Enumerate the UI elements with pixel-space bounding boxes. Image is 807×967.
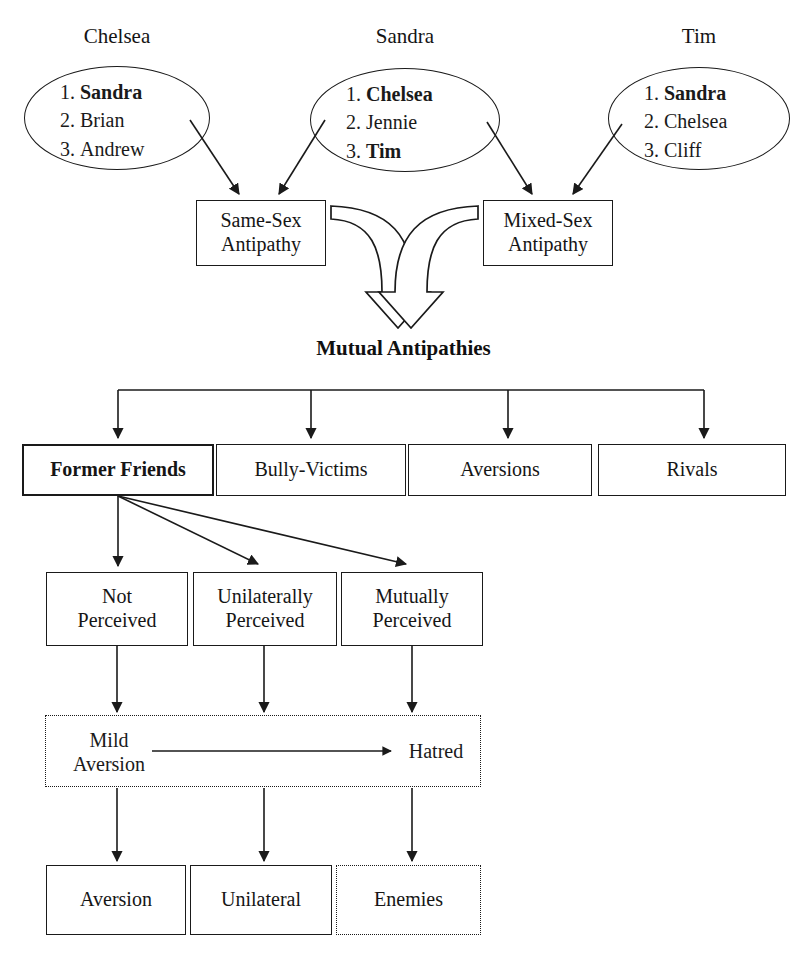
box-bully-victims: Bully-Victims [216,444,406,496]
block-arrow-mixed-sex-to-mutual [379,206,478,328]
choice-name: Tim [366,140,401,162]
box-not-perceived-text: Not Perceived [78,585,157,632]
nominator-label-sandra: Sandra [310,24,500,49]
line: Mixed-Sex [504,209,593,233]
label-hatred: Hatred [398,739,474,763]
choice-name: Chelsea [366,83,433,105]
line: Mild [62,728,156,752]
choice-row: 3.Tim [346,137,433,165]
nominator-label-chelsea: Chelsea [24,24,210,49]
diagram-canvas: Chelsea 1.Sandra 2.Brian 3.Andrew Sandra… [0,0,807,967]
choice-rank: 3. [60,135,80,163]
line: Same-Sex [220,209,301,233]
box-aversion: Aversion [46,865,186,935]
choice-row: 2.Brian [60,106,144,134]
choice-rank: 3. [346,137,366,165]
box-former-friends-label: Former Friends [50,458,186,482]
box-unilaterally-perceived: Unilaterally Perceived [193,572,337,646]
choice-rank: 2. [644,107,664,135]
choice-rank: 2. [346,108,366,136]
choice-rank: 3. [644,136,664,164]
box-same-sex-antipathy: Same-Sex Antipathy [196,200,326,266]
box-mixed-sex-antipathy: Mixed-Sex Antipathy [483,200,613,266]
line: Unilaterally [217,585,313,609]
edge-former-friends-to-unilaterally-perceived [118,496,258,564]
edge-former-friends-to-mutually-perceived [118,496,406,564]
heading-mutual-antipathies: Mutual Antipathies [0,336,807,361]
box-mixed-sex-antipathy-text: Mixed-Sex Antipathy [504,209,593,256]
box-unilateral: Unilateral [190,865,332,935]
choice-row: 1.Sandra [60,78,144,106]
nominator-choices-chelsea: 1.Sandra 2.Brian 3.Andrew [60,78,144,163]
box-not-perceived: Not Perceived [46,572,188,646]
box-unilaterally-perceived-text: Unilaterally Perceived [217,585,313,632]
choice-rank: 1. [60,78,80,106]
line: Perceived [217,609,313,633]
line: Perceived [373,609,452,633]
box-rivals-label: Rivals [666,458,717,482]
line: Perceived [78,609,157,633]
box-enemies: Enemies [336,865,481,935]
choice-name: Jennie [366,111,417,133]
choice-name: Cliff [664,139,701,161]
box-aversion-label: Aversion [80,888,152,912]
box-aversions: Aversions [408,444,592,496]
choice-rank: 1. [346,80,366,108]
label-mild-aversion: Mild Aversion [62,728,156,776]
choice-row: 3.Andrew [60,135,144,163]
nominator-choices-tim: 1.Sandra 2.Chelsea 3.Cliff [644,79,727,164]
line: Aversion [62,752,156,776]
choice-name: Chelsea [664,110,727,132]
choice-name: Sandra [80,81,142,103]
box-former-friends: Former Friends [22,444,214,496]
choice-name: Sandra [664,82,726,104]
line: Antipathy [220,233,301,257]
block-arrow-same-sex-to-mutual [331,206,430,328]
choice-rank: 2. [60,106,80,134]
box-mutually-perceived-text: Mutually Perceived [373,585,452,632]
box-rivals: Rivals [598,444,786,496]
choice-name: Brian [80,109,124,131]
choice-row: 3.Cliff [644,136,727,164]
box-same-sex-antipathy-text: Same-Sex Antipathy [220,209,301,256]
choice-name: Andrew [80,138,144,160]
box-unilateral-label: Unilateral [221,888,301,912]
nominator-choices-sandra: 1.Chelsea 2.Jennie 3.Tim [346,80,433,165]
nominator-label-tim: Tim [608,24,790,49]
choice-row: 2.Chelsea [644,107,727,135]
choice-row: 1.Sandra [644,79,727,107]
line: Not [78,585,157,609]
box-bully-victims-label: Bully-Victims [254,458,367,482]
choice-row: 1.Chelsea [346,80,433,108]
line: Antipathy [504,233,593,257]
choice-rank: 1. [644,79,664,107]
box-mutually-perceived: Mutually Perceived [341,572,483,646]
line: Mutually [373,585,452,609]
choice-row: 2.Jennie [346,108,433,136]
box-enemies-label: Enemies [374,888,443,912]
box-aversions-label: Aversions [460,458,540,482]
